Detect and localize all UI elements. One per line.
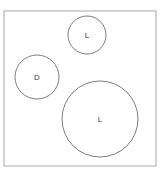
bounding-box-frame — [4, 11, 156, 166]
circles-diagram: LDL — [0, 0, 163, 175]
diagram-canvas: LDL — [0, 0, 163, 175]
circle-label: L — [98, 115, 103, 124]
circle-label: D — [34, 73, 40, 82]
circle-label: L — [85, 31, 90, 40]
